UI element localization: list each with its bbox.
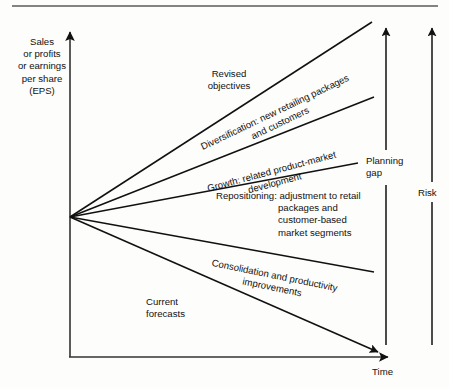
annotation-current-forecasts: Current forecasts [146,296,185,320]
annotation-risk: Risk [418,187,437,199]
series-label-repositioning: Repositioning: adjustment to retailpacka… [216,190,361,239]
annotation-planning-gap: Planning gap [366,155,403,179]
y-axis-label: Sales or profits or earnings per share (… [6,36,78,97]
x-axis-label: Time [372,366,393,378]
series-label-repositioning-line-1: Repositioning: adjustment to retail [216,190,361,201]
annotation-revised-objectives: Revised objectives [196,68,262,92]
series-label-repositioning-line-3: customer-based [216,214,361,226]
figure-canvas: Sales or profits or earnings per share (… [0,0,449,388]
series-label-repositioning-line-2: packages and [216,202,361,214]
series-label-repositioning-line-4: market segments [216,227,361,239]
